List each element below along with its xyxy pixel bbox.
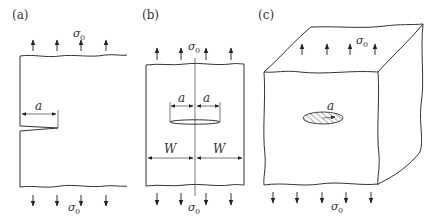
panel-c: (c) σ 0 a σ bbox=[258, 8, 423, 215]
panel-c-label: (c) bbox=[258, 8, 274, 22]
panel-b-dimension-w-left-label: W bbox=[164, 142, 178, 156]
panel-c-block-bottom-edge bbox=[264, 183, 378, 185]
panel-c-top-stress-label: σ 0 bbox=[356, 34, 368, 49]
panel-b-label: (b) bbox=[142, 8, 159, 22]
svg-text:0: 0 bbox=[195, 46, 200, 55]
panel-c-block-front-left-edge bbox=[264, 72, 265, 185]
svg-text:0: 0 bbox=[80, 33, 85, 42]
panel-a: (a) σ 0 a σ 0 bbox=[12, 8, 127, 216]
panel-b-dimension-a-left-label: a bbox=[178, 91, 185, 105]
svg-text:0: 0 bbox=[195, 207, 200, 216]
panel-b-dimension-w-right-label: W bbox=[213, 142, 227, 156]
panel-a-dimension-a-label: a bbox=[35, 99, 42, 113]
panel-b-bottom-stress-label: σ 0 bbox=[188, 201, 200, 216]
panel-a-top-wavy-edge bbox=[20, 55, 127, 57]
svg-text:0: 0 bbox=[363, 40, 368, 49]
panel-a-bottom-stress-label: σ 0 bbox=[68, 201, 80, 216]
panel-c-bottom-stress-arrows-icon bbox=[273, 192, 371, 203]
panel-c-bottom-stress-label: σ 0 bbox=[331, 200, 343, 215]
svg-text:0: 0 bbox=[338, 206, 343, 215]
fracture-geometries-diagram: (a) σ 0 a σ 0 bbox=[0, 0, 442, 221]
panel-c-block-top-face bbox=[264, 24, 423, 73]
panel-b-dimension-a-right-label: a bbox=[203, 91, 210, 105]
panel-a-label: (a) bbox=[12, 8, 29, 22]
panel-a-edge-crack bbox=[20, 126, 58, 131]
panel-a-top-stress-arrows-icon bbox=[33, 40, 106, 51]
panel-c-block-front-right-edge bbox=[378, 72, 379, 185]
panel-b-top-stress-label: σ 0 bbox=[188, 40, 200, 55]
svg-text:0: 0 bbox=[75, 207, 80, 216]
panel-a-top-stress-label: σ 0 bbox=[73, 27, 85, 42]
panel-a-bottom-wavy-edge bbox=[20, 185, 127, 187]
panel-c-radius-a-label: a bbox=[327, 99, 334, 113]
panel-b: (b) σ 0 a a W W bbox=[142, 8, 244, 216]
